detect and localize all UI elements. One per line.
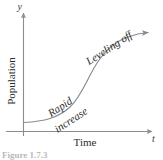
logistic-growth-figure: y t Population Time Rapid increase Level… bbox=[0, 0, 163, 160]
y-axis-name-label: Population bbox=[5, 57, 17, 105]
annotation-leveling-off: Leveling off bbox=[83, 27, 136, 67]
population-growth-curve bbox=[24, 33, 148, 123]
figure-canvas: y t Population Time Rapid increase Level… bbox=[0, 0, 163, 160]
y-axis-variable-label: y bbox=[17, 1, 23, 12]
figure-caption: Figure 1.7.3 bbox=[2, 151, 142, 160]
x-axis-name-label: Time bbox=[74, 136, 97, 148]
x-axis-variable-label: t bbox=[152, 133, 155, 144]
